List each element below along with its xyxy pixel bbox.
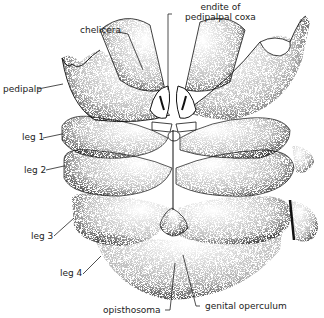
leg3-label: leg 3 xyxy=(31,231,53,241)
opisthosoma-label: opisthosoma xyxy=(103,305,161,315)
pedipalp-label: pedipalp xyxy=(3,84,42,94)
leg3-leader xyxy=(54,218,74,236)
anatomy-diagram: endite of pedipalpal coxa chelicera pedi… xyxy=(0,0,324,318)
endite-label: endite of pedipalpal coxa xyxy=(185,2,256,22)
endite-label-line1: endite of xyxy=(185,2,256,12)
leg2-leader xyxy=(46,166,64,170)
leg4-label: leg 4 xyxy=(60,268,82,278)
leg4-leader xyxy=(83,256,101,274)
genital-operculum-label: genital operculum xyxy=(205,301,287,311)
leg1-label: leg 1 xyxy=(22,132,44,142)
illustration xyxy=(0,0,324,318)
leg2-label: leg 2 xyxy=(24,165,46,175)
leg1-leader xyxy=(43,134,62,138)
endite-label-line2: pedipalpal coxa xyxy=(185,12,256,22)
chelicera-label: chelicera xyxy=(80,25,121,35)
